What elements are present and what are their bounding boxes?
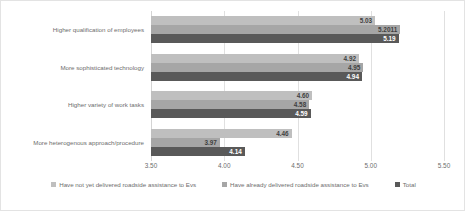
bar-value-label: 4.94 xyxy=(151,72,362,81)
bar-value-label: 5.19 xyxy=(151,34,399,43)
bar-value-label: 4.46 xyxy=(151,129,292,138)
bar-row: 4.46 xyxy=(151,129,444,138)
bar-row: 4.14 xyxy=(151,147,444,156)
bar-value-label: 4.14 xyxy=(151,147,245,156)
legend-item[interactable]: Total xyxy=(395,181,416,188)
legend-label: Have already delivered roadside assistan… xyxy=(230,181,369,188)
axis-tick-label: 5.00 xyxy=(365,162,377,169)
category-label: More heterogenous approach/procedure xyxy=(1,139,144,146)
bar-row: 4.58 xyxy=(151,100,444,109)
legend-swatch-icon xyxy=(222,182,227,187)
bar-row: 5.03 xyxy=(151,16,444,25)
bar-value-label: 4.95 xyxy=(151,63,363,72)
bar-value-label: 5.2011 xyxy=(151,25,400,34)
bar-row: 4.94 xyxy=(151,72,444,81)
bar-row: 5.19 xyxy=(151,34,444,43)
bar-value-label: 4.59 xyxy=(151,109,311,118)
category-label: Higher variety of work tasks xyxy=(1,101,144,108)
axis-tick-label: 4.00 xyxy=(218,162,230,169)
bar-value-label: 4.58 xyxy=(151,100,309,109)
bar-value-label: 5.03 xyxy=(151,16,375,25)
bar-row: 4.95 xyxy=(151,63,444,72)
legend-swatch-icon xyxy=(51,182,56,187)
legend-label: Have not yet delivered roadside assistan… xyxy=(59,181,196,188)
axis-tick-label: 3.50 xyxy=(145,162,157,169)
plot-area: 5.035.20115.194.924.954.944.604.584.594.… xyxy=(151,11,444,161)
legend-item[interactable]: Have already delivered roadside assistan… xyxy=(222,181,369,188)
legend-swatch-icon xyxy=(395,182,400,187)
bar-row: 5.2011 xyxy=(151,25,444,34)
axis-tick-label: 4.50 xyxy=(291,162,303,169)
category-axis: Higher qualification of employeesMore so… xyxy=(1,11,149,161)
bar-row: 4.92 xyxy=(151,54,444,63)
bar-chart: Higher qualification of employeesMore so… xyxy=(0,0,465,211)
axis-tick-label: 5.50 xyxy=(438,162,450,169)
gridline xyxy=(444,11,445,161)
value-axis: 3.504.004.505.005.50 xyxy=(151,162,444,174)
category-label: Higher qualification of employees xyxy=(1,26,144,33)
bar-value-label: 4.92 xyxy=(151,54,359,63)
category-label: More sophisticated technology xyxy=(1,64,144,71)
bar-row: 4.60 xyxy=(151,91,444,100)
legend-item[interactable]: Have not yet delivered roadside assistan… xyxy=(51,181,196,188)
legend-label: Total xyxy=(403,181,416,188)
bar-value-label: 3.97 xyxy=(151,138,220,147)
bar-row: 4.59 xyxy=(151,109,444,118)
bar-row: 3.97 xyxy=(151,138,444,147)
chart-legend: Have not yet delivered roadside assistan… xyxy=(1,181,465,188)
bar-value-label: 4.60 xyxy=(151,91,312,100)
